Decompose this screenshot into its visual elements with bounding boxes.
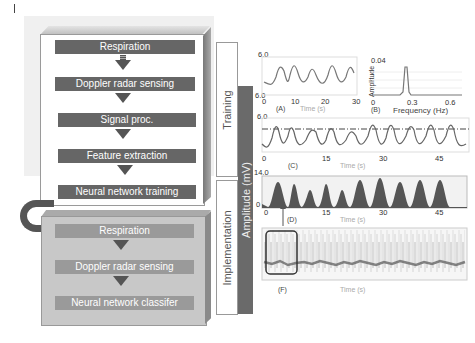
chart-d-xlabel: Time (s): [340, 216, 365, 223]
chart-f-xlabel: Time (s): [340, 286, 365, 293]
y-axis-label-bar: Amplitude (mV): [238, 86, 253, 314]
chart-b-plot: [372, 64, 462, 96]
chart-d-xtick: 15: [322, 208, 330, 217]
implementation-box-side: [205, 211, 211, 324]
chart-b-xlabel: Frequency (Hz): [393, 106, 448, 115]
figure-marker: [14, 4, 15, 13]
step-doppler-radar: Doppler radar sensing: [55, 77, 195, 91]
step-signal-proc: Signal proc.: [58, 113, 196, 127]
chart-a-xtick: 0: [262, 97, 266, 106]
chart-d-xtick: 30: [379, 208, 387, 217]
chart-f-label: (F): [278, 286, 287, 293]
chart-a-xlabel: Time (s): [300, 105, 325, 112]
down-arrow-icon: [115, 93, 131, 103]
phase-training: Training: [216, 42, 238, 177]
chart-c-xtick: 30: [379, 154, 387, 163]
chart-d-xtick: 0: [264, 208, 268, 217]
down-arrow-icon: [113, 276, 129, 286]
chart-c-plot: [262, 118, 469, 152]
chart-a-plot: [262, 57, 357, 95]
phase-implementation: Implementation: [216, 180, 238, 315]
step-respiration: Respiration: [55, 40, 195, 54]
down-arrow-icon: [113, 240, 129, 250]
chart-d-label: (D): [287, 216, 297, 223]
chart-d-plot: [262, 176, 467, 208]
down-arrow-icon: [117, 165, 133, 175]
chart-c-xtick: 15: [322, 154, 330, 163]
down-arrow-icon: [115, 129, 131, 139]
chart-d-xtick: 45: [435, 208, 443, 217]
step-nn-training: Neural network training: [58, 185, 196, 199]
chart-a-label: (A): [276, 105, 285, 112]
chart-c-xtick: 45: [435, 154, 443, 163]
chart-a-xtick: 10: [291, 97, 299, 106]
impl-step-respiration: Respiration: [55, 224, 194, 238]
training-box-side: [203, 27, 211, 204]
chart-c-xtick: 0: [262, 154, 266, 163]
event-marker-arrow-icon: [280, 204, 286, 226]
chart-b-label: (B): [371, 106, 380, 113]
chart-d-ytick-bottom: 0: [256, 200, 260, 209]
chart-c-label: (C): [288, 162, 298, 169]
chart-c-xlabel: Time (s): [340, 162, 365, 169]
chart-a-xtick: 30: [352, 97, 360, 106]
step-feature-extraction: Feature extraction: [58, 149, 196, 163]
chart-f-plot: [262, 228, 467, 280]
impl-step-doppler-radar: Doppler radar sensing: [55, 260, 194, 274]
impl-step-nn-classifier: Neural network classifer: [55, 296, 194, 310]
down-arrow-icon: [115, 60, 131, 70]
